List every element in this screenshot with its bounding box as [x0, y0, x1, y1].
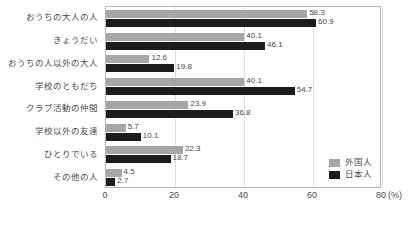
category-label: ひとりでいる [44, 149, 98, 159]
bar [106, 64, 174, 72]
bar-value-label: 54.7 [297, 86, 313, 94]
category-label: 学校以外の友達 [35, 126, 98, 136]
bar-value-label: 2.7 [117, 177, 128, 185]
legend-swatch [329, 159, 340, 167]
plot-area: 58.360.940.146.112.619.840.154.723.936.8… [105, 6, 381, 188]
gridline [313, 7, 314, 187]
bar-value-label: 46.1 [267, 41, 283, 49]
bar [106, 42, 265, 50]
legend-label: 日本人 [345, 170, 372, 179]
bar-value-label: 5.7 [128, 123, 139, 131]
legend-item: 外国人 [329, 158, 372, 167]
category-label: 学校のともだち [35, 81, 98, 91]
category-label: その他の人 [53, 172, 98, 182]
category-label: おうちの人以外の大人 [8, 58, 98, 68]
bar [106, 124, 126, 132]
bar-value-label: 18.7 [173, 154, 189, 162]
x-tick-label: 20 [169, 190, 179, 201]
bar [106, 10, 307, 18]
bar-value-label: 19.8 [176, 63, 192, 71]
bar-value-label: 36.8 [235, 109, 251, 117]
bar-value-label: 23.9 [190, 100, 206, 108]
bar [106, 155, 171, 163]
bar [106, 87, 295, 95]
x-tick-label: 80 [376, 190, 386, 201]
bar [106, 55, 149, 63]
legend-swatch [329, 171, 340, 179]
legend-label: 外国人 [345, 158, 372, 167]
gridline [382, 7, 383, 187]
bar [106, 33, 244, 41]
bar-value-label: 10.1 [143, 132, 159, 140]
bar-value-label: 12.6 [151, 54, 167, 62]
x-tick-label: 60 [307, 190, 317, 201]
bar-chart: おうちの大人の人きょうだいおうちの人以外の大人学校のともだちクラブ活動の仲間学校… [0, 0, 417, 227]
category-label: おうちの大人の人 [26, 12, 98, 22]
bar-value-label: 58.3 [309, 9, 325, 17]
category-axis-labels: おうちの大人の人きょうだいおうちの人以外の大人学校のともだちクラブ活動の仲間学校… [0, 6, 102, 188]
legend: 外国人日本人 [329, 158, 372, 179]
bar [106, 101, 188, 109]
x-axis-ticks: 020406080 [105, 190, 381, 206]
legend-item: 日本人 [329, 170, 372, 179]
bar [106, 19, 316, 27]
x-axis-unit: (%) [388, 190, 402, 201]
x-tick-label: 40 [238, 190, 248, 201]
bar [106, 78, 244, 86]
x-tick-label: 0 [102, 190, 107, 201]
bar-value-label: 60.9 [318, 18, 334, 26]
category-label: きょうだい [53, 35, 98, 45]
bar-value-label: 40.1 [246, 32, 262, 40]
bar [106, 110, 233, 118]
category-label: クラブ活動の仲間 [26, 103, 98, 113]
bar [106, 133, 141, 141]
bar-value-label: 22.3 [185, 145, 201, 153]
bar [106, 146, 183, 154]
bar [106, 178, 115, 186]
bar-value-label: 40.1 [246, 77, 262, 85]
bar-value-label: 4.5 [124, 168, 135, 176]
